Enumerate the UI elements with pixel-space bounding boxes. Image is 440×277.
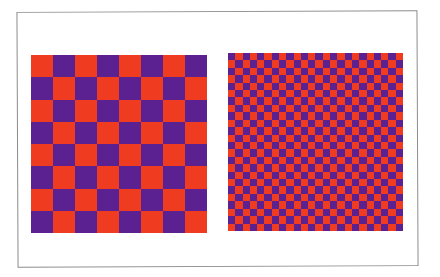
- checker-cell-red: [228, 194, 235, 201]
- checker-cell-red: [381, 216, 388, 223]
- checker-cell-red: [308, 53, 315, 60]
- checker-cell-purple: [243, 112, 250, 119]
- checker-cell-red: [352, 216, 359, 223]
- checker-cell-purple: [243, 216, 250, 223]
- checker-cell-red: [308, 68, 315, 75]
- checker-cell-red: [301, 60, 308, 67]
- checker-cell-red: [374, 120, 381, 127]
- checker-cell-purple: [185, 55, 207, 77]
- checker-cell-red: [294, 68, 301, 75]
- checker-cell-red: [315, 209, 322, 216]
- checker-cell-red: [345, 105, 352, 112]
- checker-cell-red: [243, 120, 250, 127]
- checker-cell-red: [323, 172, 330, 179]
- checker-cell-purple: [243, 68, 250, 75]
- checker-cell-purple: [294, 209, 301, 216]
- checker-cell-purple: [31, 166, 53, 188]
- checker-cell-red: [301, 224, 308, 231]
- checker-cell-red: [228, 75, 235, 82]
- checker-cell-red: [243, 105, 250, 112]
- checker-cell-purple: [286, 68, 293, 75]
- checker-cell-purple: [330, 172, 337, 179]
- checker-cell-red: [264, 112, 271, 119]
- checker-cell-purple: [163, 122, 185, 144]
- checker-cell-purple: [337, 179, 344, 186]
- checker-cell-red: [388, 194, 395, 201]
- checker-cell-purple: [396, 164, 403, 171]
- checker-cell-red: [294, 83, 301, 90]
- checker-cell-red: [330, 75, 337, 82]
- checker-cell-red: [367, 172, 374, 179]
- checker-cell-red: [257, 90, 264, 97]
- checker-cell-red: [315, 90, 322, 97]
- checker-cell-purple: [243, 97, 250, 104]
- checker-cell-red: [337, 216, 344, 223]
- checker-cell-red: [264, 97, 271, 104]
- checker-cell-red: [367, 142, 374, 149]
- checker-cell-purple: [345, 201, 352, 208]
- checker-cell-purple: [367, 135, 374, 142]
- checker-cell-purple: [294, 224, 301, 231]
- checker-cell-red: [119, 144, 141, 166]
- checker-cell-red: [396, 112, 403, 119]
- checker-cell-red: [315, 179, 322, 186]
- checker-cell-purple: [286, 83, 293, 90]
- checker-cell-red: [323, 53, 330, 60]
- checker-cell-red: [337, 83, 344, 90]
- checker-cell-red: [330, 179, 337, 186]
- checker-cell-purple: [352, 224, 359, 231]
- checker-cell-red: [301, 90, 308, 97]
- checker-cell-purple: [359, 68, 366, 75]
- checker-cell-red: [286, 194, 293, 201]
- checker-cell-red: [337, 142, 344, 149]
- checker-cell-red: [381, 83, 388, 90]
- checker-cell-purple: [374, 142, 381, 149]
- checker-cell-red: [301, 209, 308, 216]
- checker-cell-purple: [388, 172, 395, 179]
- checker-cell-purple: [367, 194, 374, 201]
- checker-cell-purple: [323, 90, 330, 97]
- checker-cell-red: [345, 194, 352, 201]
- checker-cell-purple: [294, 135, 301, 142]
- checker-cell-purple: [396, 179, 403, 186]
- checker-cell-purple: [330, 53, 337, 60]
- checker-cell-purple: [381, 135, 388, 142]
- checker-cell-purple: [294, 120, 301, 127]
- checker-cell-red: [163, 55, 185, 77]
- checker-cell-purple: [264, 149, 271, 156]
- checker-cell-purple: [337, 164, 344, 171]
- checker-cell-red: [367, 112, 374, 119]
- checker-cell-purple: [97, 55, 119, 77]
- checker-cell-red: [279, 97, 286, 104]
- checker-cell-purple: [323, 224, 330, 231]
- checker-cell-purple: [330, 97, 337, 104]
- checker-cell-red: [294, 201, 301, 208]
- checker-cell-purple: [388, 127, 395, 134]
- checker-cell-red: [388, 60, 395, 67]
- checker-cell-purple: [352, 60, 359, 67]
- checker-cell-red: [345, 135, 352, 142]
- checker-cell-red: [396, 201, 403, 208]
- checker-cell-red: [381, 97, 388, 104]
- checker-cell-red: [286, 120, 293, 127]
- checker-cell-purple: [388, 186, 395, 193]
- checker-cell-red: [286, 75, 293, 82]
- checker-cell-red: [315, 60, 322, 67]
- checker-cell-red: [286, 60, 293, 67]
- checker-cell-purple: [294, 164, 301, 171]
- checker-cell-purple: [53, 144, 75, 166]
- checker-cell-red: [315, 194, 322, 201]
- checker-cell-purple: [243, 127, 250, 134]
- checker-cell-purple: [308, 179, 315, 186]
- checker-cell-red: [235, 201, 242, 208]
- checker-cell-purple: [315, 142, 322, 149]
- checker-cell-red: [264, 172, 271, 179]
- checker-cell-red: [352, 142, 359, 149]
- fine-checkerboard: [228, 53, 403, 231]
- checker-cell-red: [374, 75, 381, 82]
- checker-cell-red: [294, 53, 301, 60]
- checker-cell-red: [243, 194, 250, 201]
- checker-cell-red: [359, 149, 366, 156]
- checker-cell-red: [315, 224, 322, 231]
- checker-cell-purple: [141, 100, 163, 122]
